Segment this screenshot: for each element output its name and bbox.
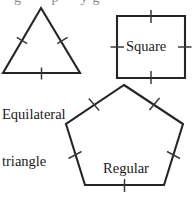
shape-equilateral-triangle: [3, 8, 80, 80]
geometry-figure: g p yg Equilateral triang: [0, 0, 195, 201]
regular-pentagon-label-line1: Regular: [89, 161, 163, 177]
square-label: Square: [124, 39, 168, 55]
tick-mark-triangle-left: [17, 37, 27, 43]
regular-pentagon-label: Regular pentagon: [89, 130, 163, 201]
equilateral-triangle-outline: [3, 8, 80, 73]
equilateral-triangle-label: Equilateral triangle: [2, 76, 66, 201]
equilateral-triangle-label-line2: triangle: [2, 154, 66, 170]
equilateral-triangle-label-line1: Equilateral: [2, 107, 66, 123]
